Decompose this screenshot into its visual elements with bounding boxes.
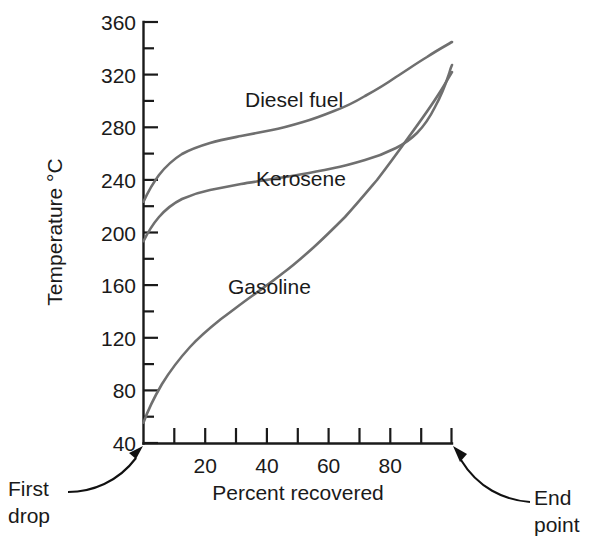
y-tick-label: 280 [101,116,136,139]
annotation-end-point-line2: point [534,513,580,536]
series-label-gasoline: Gasoline [228,275,311,298]
x-tick-label: 40 [255,454,278,477]
x-tick-label: 20 [194,454,217,477]
annotation-first-drop-line1: First [8,477,49,500]
distillation-curve-figure: 360 320 280 240 200 160 120 80 40 20 4 [0,0,599,555]
y-axis-title: Temperature °C [43,158,66,305]
chart-svg: 360 320 280 240 200 160 120 80 40 20 4 [0,0,599,555]
y-tick-label: 120 [101,327,136,350]
series-label-diesel-fuel: Diesel fuel [245,88,343,111]
annotation-first-drop-line2: drop [8,504,50,527]
series-label-kerosene: Kerosene [256,167,346,190]
y-tick-label: 200 [101,222,136,245]
annotation-end-point-line1: End [534,486,571,509]
y-tick-label: 320 [101,64,136,87]
x-tick-label: 60 [317,454,340,477]
y-tick-label: 240 [101,169,136,192]
y-tick-label: 360 [101,11,136,34]
x-tick-label: 80 [379,454,402,477]
y-tick-label: 160 [101,274,136,297]
x-axis-title: Percent recovered [212,481,384,504]
y-tick-label: 80 [113,379,136,402]
